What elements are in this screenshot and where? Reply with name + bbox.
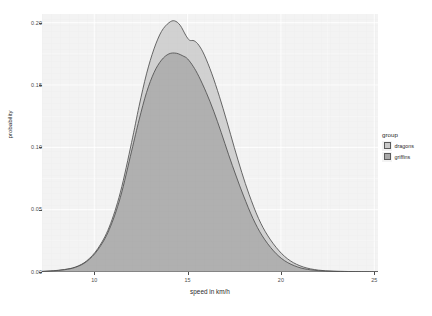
legend-swatch-griffins (384, 153, 391, 160)
x-tick-label: 10 (79, 277, 109, 283)
x-tick-label: 15 (173, 277, 203, 283)
y-tick-mark (39, 23, 42, 24)
legend-item-griffins[interactable]: griffins (382, 151, 430, 162)
y-tick-mark (39, 147, 42, 148)
plot-area-svg (42, 14, 378, 272)
density-chart: 0.000.050.100.150.20 probability 1015202… (0, 0, 432, 316)
y-tick-mark (39, 210, 42, 211)
y-axis-title: probability (6, 85, 13, 165)
legend-items: dragonsgriffins (382, 140, 430, 162)
y-tick-label: 0.10 (8, 144, 42, 150)
y-tick-label: 0.15 (8, 82, 42, 88)
legend: group dragonsgriffins (382, 131, 430, 162)
y-tick-label: 0.20 (8, 20, 42, 26)
y-tick-mark (39, 85, 42, 86)
y-tick-label: 0.00 (8, 269, 42, 275)
x-tick-label: 25 (359, 277, 389, 283)
x-tick-mark (188, 272, 189, 275)
legend-label: griffins (395, 154, 411, 160)
x-tick-mark (374, 272, 375, 275)
legend-key-box (382, 152, 392, 162)
y-tick-mark (39, 272, 42, 273)
x-tick-label: 20 (266, 277, 296, 283)
legend-swatch-dragons (384, 142, 391, 149)
x-axis-title: speed in km/h (42, 288, 378, 295)
plot-panel (42, 14, 378, 272)
x-tick-mark (94, 272, 95, 275)
legend-label: dragons (395, 143, 414, 149)
y-tick-label: 0.05 (8, 206, 42, 212)
legend-key-box (382, 141, 392, 151)
legend-title: group (382, 131, 430, 138)
x-tick-mark (281, 272, 282, 275)
legend-item-dragons[interactable]: dragons (382, 140, 430, 151)
